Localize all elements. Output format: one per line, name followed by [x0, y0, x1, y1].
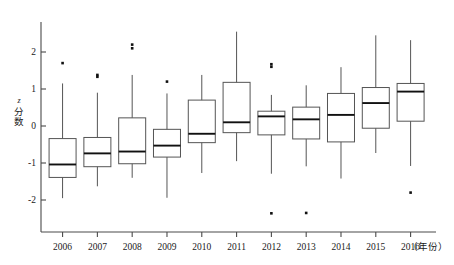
- box-2011: [223, 32, 250, 162]
- x-tick-label-2012: 2012: [262, 242, 281, 252]
- outlier-point: [270, 63, 273, 66]
- box-rect: [293, 107, 320, 139]
- box-rect: [119, 118, 146, 164]
- outlier-point: [305, 212, 308, 215]
- y-axis-label-shu: 数: [12, 117, 26, 128]
- box-series: [49, 32, 424, 215]
- outlier-point: [166, 80, 169, 83]
- x-tick-label-2007: 2007: [88, 242, 107, 252]
- x-tick-label-2008: 2008: [123, 242, 142, 252]
- box-rect: [49, 139, 76, 178]
- outlier-point: [96, 74, 99, 77]
- x-tick-label-2015: 2015: [366, 242, 385, 252]
- y-axis-label-z: z: [12, 96, 26, 107]
- y-tick-label: -2: [28, 195, 36, 205]
- box-2010: [188, 75, 215, 173]
- outlier-point: [270, 66, 273, 69]
- y-axis-ticks: 210-1-2: [28, 47, 46, 205]
- box-rect: [153, 129, 180, 157]
- box-rect: [258, 111, 285, 135]
- box-rect: [397, 83, 424, 121]
- box-2007: [84, 74, 111, 187]
- y-tick-label: 0: [31, 121, 36, 131]
- boxplot-chart: z 分 数 210-1-2 20062007200820092010201120…: [0, 0, 454, 265]
- y-tick-label: 1: [31, 84, 36, 94]
- y-axis-label: z 分 数: [12, 96, 26, 128]
- box-rect: [223, 82, 250, 132]
- box-2012: [258, 63, 285, 215]
- x-axis-unit-label: （年份）: [408, 241, 448, 252]
- outlier-point: [131, 47, 134, 50]
- boxplot-canvas: 210-1-2 20062007200820092010201120122013…: [0, 0, 454, 265]
- x-tick-label-2006: 2006: [53, 242, 72, 252]
- x-tick-label-2011: 2011: [227, 242, 246, 252]
- box-rect: [362, 88, 389, 129]
- x-tick-label-2013: 2013: [297, 242, 316, 252]
- outlier-point: [61, 62, 64, 65]
- box-2006: [49, 62, 76, 198]
- box-rect: [84, 137, 111, 166]
- outlier-point: [131, 43, 134, 46]
- y-axis-label-fen: 分: [12, 107, 26, 118]
- box-2013: [293, 85, 320, 214]
- box-2016: [397, 40, 424, 194]
- y-tick-label: -1: [28, 158, 36, 168]
- y-tick-label: 2: [31, 47, 36, 57]
- box-rect: [327, 93, 354, 141]
- outlier-point: [270, 212, 273, 215]
- box-2008: [119, 43, 146, 178]
- outlier-point: [409, 191, 412, 194]
- box-2015: [362, 35, 389, 153]
- axes: [41, 22, 436, 232]
- x-tick-label-2009: 2009: [157, 242, 176, 252]
- box-2014: [327, 67, 354, 178]
- box-2009: [153, 80, 180, 197]
- x-tick-label-2014: 2014: [331, 242, 350, 252]
- x-tick-label-2010: 2010: [192, 242, 211, 252]
- x-axis-ticks: 2006200720082009201020112012201320142015…: [53, 232, 420, 252]
- box-rect: [188, 100, 215, 143]
